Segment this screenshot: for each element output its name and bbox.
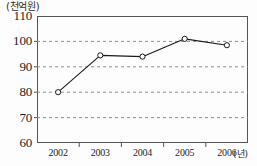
chart-plot-area	[0, 0, 257, 166]
data-point-markers	[56, 36, 230, 95]
data-point-marker	[224, 43, 229, 48]
data-point-marker	[182, 36, 187, 41]
chart-container: (천억원) 60708090100110 (년) 200220032004200…	[0, 0, 257, 166]
data-point-marker	[98, 53, 103, 58]
gridlines	[37, 41, 248, 117]
data-point-marker	[140, 54, 145, 59]
data-series-line	[58, 39, 227, 92]
x-axis-ticks	[79, 143, 206, 147]
data-point-marker	[56, 90, 61, 95]
y-axis-ticks	[34, 41, 37, 117]
